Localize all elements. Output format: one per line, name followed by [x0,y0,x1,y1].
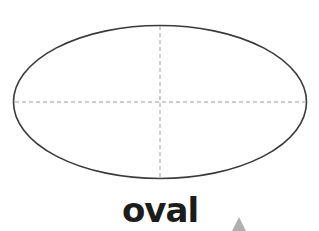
triangle-marker-icon [232,217,246,231]
shape-label: oval [120,190,200,230]
